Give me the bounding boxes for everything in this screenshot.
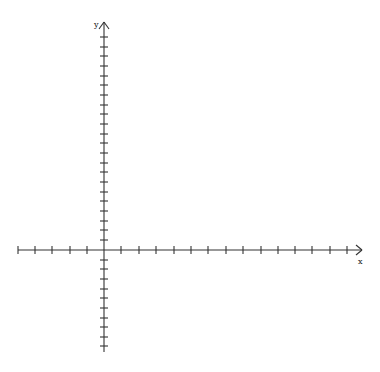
axes-graphic [0,0,380,372]
x-arrow-icon [356,245,362,250]
coordinate-plane: y x [0,0,380,372]
x-arrow-icon [356,250,362,255]
y-axis-label: y [94,20,99,29]
y-arrow-icon [99,22,104,29]
y-arrow-icon [104,22,109,29]
x-axis-label: x [358,257,363,266]
